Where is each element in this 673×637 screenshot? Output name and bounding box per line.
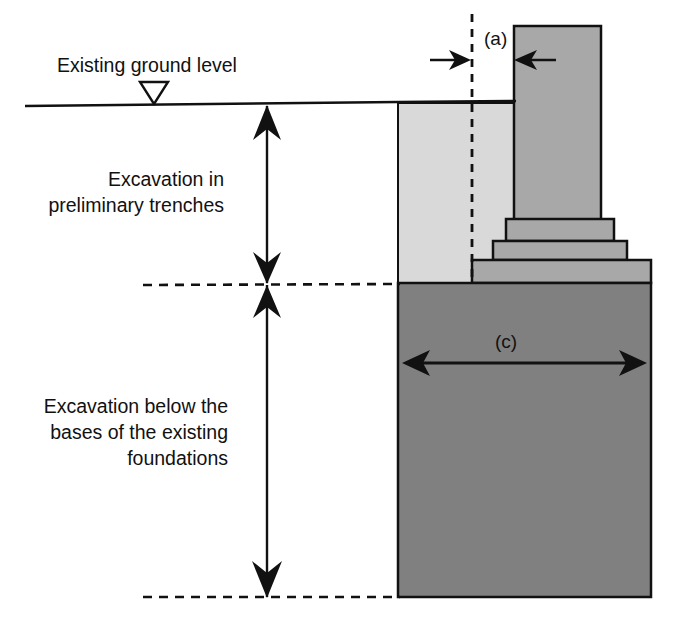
ground-line-group [25,82,516,106]
label-below-foundations-line3: foundations [127,447,228,469]
dimension-preliminary-trench [253,105,281,284]
dashed-trench-base-line [143,284,400,285]
excavation-masses [398,26,651,597]
existing-ground-line [25,102,398,106]
label-existing-ground-level: Existing ground level [57,54,237,76]
label-dimension-c: (c) [495,331,517,352]
label-preliminary-trenches-line2: preliminary trenches [48,194,224,216]
label-below-foundations-line2: bases of the existing [50,421,228,443]
figure-root: Existing ground level Excavation in prel… [0,0,673,637]
footing-step-3 [472,260,651,283]
deep-excavation-block [398,283,651,597]
dimension-deep-excavation [252,285,282,598]
underpinning-section-diagram: Existing ground level Excavation in prel… [0,0,673,637]
preliminary-trench-block [398,103,472,283]
label-dimension-a: (a) [484,28,507,49]
footing-step-1 [506,219,614,241]
label-preliminary-trenches-line1: Excavation in [108,168,224,190]
ground-level-symbol-icon [140,82,168,104]
label-below-foundations-line1: Excavation below the [44,395,228,417]
footing-step-2 [493,241,627,260]
existing-ground-line-right [398,101,516,102]
